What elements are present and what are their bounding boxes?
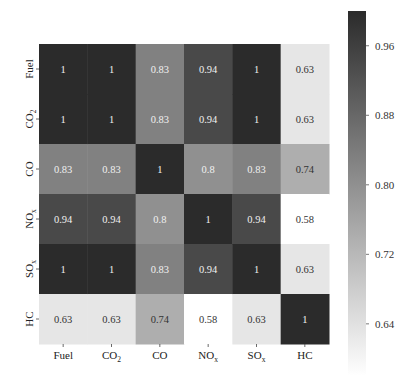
colorbar-tick-label: 0.96: [375, 40, 395, 52]
colorbar: 0.960.880.800.720.64: [348, 11, 395, 376]
cell-annotation: 0.63: [296, 264, 314, 275]
x-tick-label: SOx: [248, 349, 266, 364]
y-tick-label: CO: [23, 161, 35, 176]
x-axis: FuelCO2CONOxSOxHC: [53, 344, 312, 364]
colorbar-tick-label: 0.64: [375, 318, 395, 330]
cell-annotation: 0.58: [296, 214, 314, 225]
y-axis: FuelCO2CONOxSOxHC: [23, 59, 39, 326]
cell-annotation: 0.94: [199, 264, 218, 275]
cell-annotation: 0.83: [102, 164, 120, 175]
cell-annotation: 0.74: [296, 164, 315, 175]
cell-annotation: 0.94: [199, 114, 218, 125]
cell-annotation: 0.83: [151, 114, 169, 125]
cell-annotation: 0.94: [247, 214, 266, 225]
x-tick-label: Fuel: [53, 349, 73, 361]
cell-annotation: 0.83: [151, 64, 169, 75]
cell-annotation: 1: [61, 64, 66, 75]
colorbar-tick-label: 0.80: [375, 179, 395, 191]
colorbar-tick-label: 0.88: [375, 109, 395, 121]
colorbar-gradient: [348, 11, 366, 376]
cell-annotation: 0.94: [102, 214, 121, 225]
cell-annotation: 1: [61, 114, 66, 125]
cell-annotation: 1: [254, 64, 259, 75]
cell-annotation: 0.8: [153, 214, 166, 225]
y-tick-label: Fuel: [23, 59, 35, 79]
x-tick-label: NOx: [198, 349, 218, 364]
cell-annotation: 0.63: [296, 114, 314, 125]
cell-annotation: 1: [302, 314, 307, 325]
y-tick-label: HC: [23, 311, 35, 326]
cell-annotation: 0.8: [202, 164, 215, 175]
cell-annotation: 1: [254, 114, 259, 125]
x-tick-label: CO2: [102, 349, 121, 364]
cell-annotation: 1: [109, 264, 114, 275]
cell-annotation: 0.63: [296, 64, 314, 75]
y-tick-label: NOx: [23, 209, 38, 229]
cell-annotation: 1: [254, 264, 259, 275]
cell-annotation: 1: [206, 214, 211, 225]
cell-annotation: 0.63: [102, 314, 120, 325]
cell-annotation: 0.63: [54, 314, 72, 325]
x-tick-label: CO: [152, 349, 167, 361]
cell-annotation: 0.74: [151, 314, 170, 325]
cell-annotation: 0.83: [151, 264, 169, 275]
heatmap-cells: 110.830.9410.63110.830.9410.630.830.8310…: [39, 44, 330, 345]
y-tick-label: CO2: [23, 109, 38, 128]
cell-annotation: 0.94: [199, 64, 218, 75]
cell-annotation: 0.94: [54, 214, 73, 225]
cell-annotation: 1: [157, 164, 162, 175]
cell-annotation: 0.58: [199, 314, 217, 325]
cell-annotation: 0.83: [54, 164, 72, 175]
cell-annotation: 1: [109, 114, 114, 125]
cell-annotation: 1: [61, 264, 66, 275]
colorbar-tick-label: 0.72: [375, 248, 394, 260]
cell-annotation: 1: [109, 64, 114, 75]
x-tick-label: HC: [297, 349, 312, 361]
cell-annotation: 0.63: [247, 314, 265, 325]
y-tick-label: SOx: [23, 260, 38, 278]
correlation-heatmap: 110.830.9410.63110.830.9410.630.830.8310…: [0, 0, 415, 390]
cell-annotation: 0.83: [247, 164, 265, 175]
